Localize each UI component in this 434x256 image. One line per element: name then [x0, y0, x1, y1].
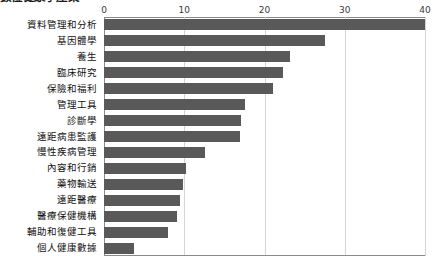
bar: [104, 115, 241, 126]
bar-rows: 資料管理和分析基因體學養生臨床研究保險和福利管理工具診斷學遠距病患監護慢性疾病管…: [0, 17, 434, 256]
bar-row: 基因體學: [0, 33, 434, 49]
bar: [104, 195, 180, 206]
category-label: 個人健康數據: [1, 240, 97, 256]
bar: [104, 147, 205, 158]
bar: [104, 99, 245, 110]
bar-chart: 數位健康子產業 010203040 資料管理和分析基因體學養生臨床研究保險和福利…: [0, 0, 434, 256]
bar: [104, 227, 168, 238]
category-label: 遠距病患監護: [1, 129, 97, 145]
bar: [104, 19, 425, 30]
bar-row: 慢性疾病管理: [0, 144, 434, 160]
category-label: 資料管理和分析: [1, 17, 97, 33]
category-label: 管理工具: [1, 97, 97, 113]
bar-row: 個人健康數據: [0, 240, 434, 256]
category-label: 養生: [1, 49, 97, 65]
x-tick-label-30: 30: [339, 4, 350, 16]
category-label: 內容和行銷: [1, 160, 97, 176]
x-tick-label-40: 40: [419, 4, 430, 16]
bar-row: 內容和行銷: [0, 160, 434, 176]
bar-row: 輔助和復健工具: [0, 224, 434, 240]
bar-row: 管理工具: [0, 97, 434, 113]
bar: [104, 83, 273, 94]
bar-row: 遠距醫療: [0, 192, 434, 208]
category-label: 診斷學: [1, 113, 97, 129]
bar-row: 醫療保健機構: [0, 208, 434, 224]
bar-row: 資料管理和分析: [0, 17, 434, 33]
category-label: 保險和福利: [1, 81, 97, 97]
bar: [104, 243, 134, 254]
bar: [104, 163, 186, 174]
category-label: 藥物輸送: [1, 176, 97, 192]
bar-row: 藥物輸送: [0, 176, 434, 192]
bar: [104, 35, 325, 46]
x-tick-label-10: 10: [179, 4, 190, 16]
bar: [104, 51, 290, 62]
category-label: 醫療保健機構: [1, 208, 97, 224]
x-axis-tick-labels: 010203040: [0, 4, 434, 17]
bar-row: 遠距病患監護: [0, 129, 434, 145]
category-label: 臨床研究: [1, 65, 97, 81]
category-label: 輔助和復健工具: [1, 224, 97, 240]
bar: [104, 211, 177, 222]
bar: [104, 131, 240, 142]
x-tick-label-0: 0: [101, 4, 107, 16]
category-label: 慢性疾病管理: [1, 144, 97, 160]
bar: [104, 179, 183, 190]
bar-row: 養生: [0, 49, 434, 65]
bar-row: 診斷學: [0, 113, 434, 129]
bar-row: 臨床研究: [0, 65, 434, 81]
bar: [104, 67, 283, 78]
bar-row: 保險和福利: [0, 81, 434, 97]
category-label: 基因體學: [1, 33, 97, 49]
x-tick-label-20: 20: [259, 4, 270, 16]
category-label: 遠距醫療: [1, 192, 97, 208]
